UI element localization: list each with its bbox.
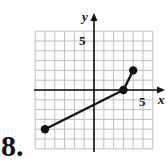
x-axis-label: x xyxy=(157,92,165,107)
y-tick-label-5: 5 xyxy=(79,33,86,48)
axes xyxy=(34,13,165,152)
coordinate-graph: y x 5 5 8. xyxy=(0,0,167,162)
y-axis-label: y xyxy=(80,9,88,24)
closed-endpoint-dot xyxy=(129,66,137,74)
closed-endpoint-dot xyxy=(41,125,49,133)
y-axis-arrow-icon xyxy=(91,13,98,21)
closed-endpoint-dot xyxy=(119,86,127,94)
problem-number: 8. xyxy=(1,129,24,162)
x-tick-label-5: 5 xyxy=(139,94,146,109)
